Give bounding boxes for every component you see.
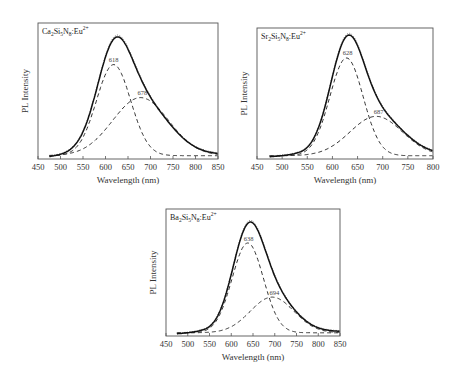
x-tick-label: 800	[312, 339, 325, 349]
x-tick-label: 550	[203, 339, 216, 349]
x-tick-label: 800	[189, 162, 202, 172]
y-axis-label: PL Intensity	[148, 250, 158, 294]
fit-sum-curve	[177, 220, 340, 333]
chart-1: 450500550600650700750800850Wavelength (n…	[20, 23, 224, 185]
peak-label: 618	[109, 56, 119, 63]
x-tick-label: 700	[144, 162, 157, 172]
x-tick-label: 700	[376, 162, 389, 172]
chart-title: Ba2Si5N8:Eu2+	[170, 211, 217, 223]
x-tick-label: 650	[351, 162, 364, 172]
figure: 450500550600650700750800850Wavelength (n…	[0, 0, 457, 381]
peak-label: 687	[374, 108, 385, 115]
component-curve-618	[49, 65, 217, 156]
chart-title: Sr2Si5N8:Eu2+	[261, 30, 306, 42]
y-axis-label: PL Intensity	[239, 71, 249, 115]
component-curve-694	[177, 297, 340, 333]
x-axis-label: Wavelength (nm)	[314, 175, 377, 185]
x-tick-label: 600	[99, 162, 112, 172]
fit-sum-curve	[49, 35, 217, 156]
chart-3: 450500550600650700750800850Wavelength (n…	[148, 209, 346, 362]
x-tick-label: 600	[225, 339, 238, 349]
x-tick-label: 550	[77, 162, 90, 172]
x-tick-label: 450	[251, 162, 264, 172]
x-axis-label: Wavelength (nm)	[97, 175, 160, 185]
chart-title: Ca2Si5N8:Eu2+	[42, 25, 89, 37]
measured-curve	[177, 222, 340, 334]
component-curve-678	[49, 98, 217, 156]
peak-label: 694	[269, 289, 280, 296]
plot-frame	[166, 209, 340, 336]
component-curve-638	[177, 243, 340, 333]
x-axis-label: Wavelength (nm)	[222, 352, 285, 362]
x-tick-label: 650	[247, 339, 260, 349]
x-tick-label: 500	[181, 339, 194, 349]
x-tick-label: 450	[32, 162, 45, 172]
peak-label: 628	[343, 49, 353, 56]
component-curve-628	[270, 58, 433, 156]
x-tick-label: 450	[160, 339, 173, 349]
y-axis-label: PL Intensity	[20, 69, 30, 113]
x-tick-label: 850	[212, 162, 225, 172]
peak-label: 638	[244, 235, 254, 242]
chart-2: 450500550600650700750800Wavelength (nm)P…	[239, 28, 439, 185]
x-tick-label: 500	[276, 162, 289, 172]
x-tick-label: 650	[122, 162, 135, 172]
plot-frame	[257, 28, 433, 159]
x-tick-label: 850	[334, 339, 347, 349]
peak-label: 678	[138, 89, 148, 96]
x-tick-label: 750	[401, 162, 414, 172]
x-tick-label: 550	[301, 162, 314, 172]
x-tick-label: 500	[54, 162, 67, 172]
x-tick-label: 600	[326, 162, 339, 172]
x-tick-label: 750	[290, 339, 303, 349]
measured-curve	[49, 37, 217, 157]
x-tick-label: 800	[427, 162, 440, 172]
plot-frame	[38, 23, 218, 159]
x-tick-label: 750	[167, 162, 180, 172]
x-tick-label: 700	[268, 339, 281, 349]
